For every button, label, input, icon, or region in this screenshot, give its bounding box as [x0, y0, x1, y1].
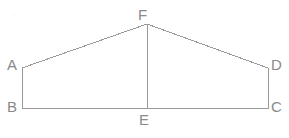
vertex-label-c: C: [271, 99, 282, 114]
vertex-label-b: B: [7, 99, 17, 114]
scan-speck: [29, 15, 31, 17]
scan-speck: [51, 33, 53, 35]
vertex-label-a: A: [7, 57, 17, 72]
vertex-label-e: E: [139, 112, 149, 127]
geometry-figure: A B C D E F: [0, 0, 289, 138]
segment-AF: [22, 24, 147, 68]
scan-speck: [12, 13, 15, 16]
figure-line-group: [22, 24, 268, 108]
vertex-label-d: D: [271, 57, 282, 72]
segment-FD: [147, 24, 268, 68]
vertex-label-f: F: [138, 7, 147, 22]
